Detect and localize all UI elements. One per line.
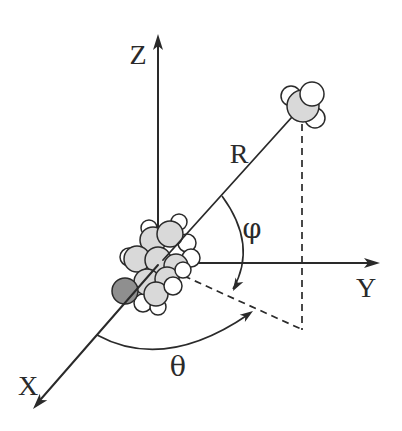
phi-angle-arc bbox=[222, 196, 243, 291]
r-distance-label: R bbox=[230, 138, 249, 169]
theta-arc-line bbox=[97, 314, 249, 349]
z-axis-label: Z bbox=[129, 39, 146, 70]
r-distance-line bbox=[163, 117, 292, 260]
diagram-svg: Z Y X R φ θ bbox=[0, 0, 402, 431]
theta-angle-arc bbox=[97, 311, 253, 349]
molecule-atom bbox=[300, 82, 324, 106]
y-axis-label: Y bbox=[356, 272, 376, 303]
origin-molecular-cluster bbox=[112, 214, 200, 315]
coordinate-diagram: Z Y X R φ θ bbox=[0, 0, 402, 431]
r-line bbox=[163, 117, 292, 260]
x-axis-line bbox=[41, 265, 158, 399]
cluster-atom bbox=[164, 277, 182, 295]
phi-angle-label: φ bbox=[243, 213, 262, 244]
x-axis bbox=[33, 265, 158, 409]
phi-arc-line bbox=[222, 196, 243, 289]
theta-arc-arrowhead-icon bbox=[240, 311, 253, 322]
x-axis-label: X bbox=[18, 370, 38, 401]
theta-angle-label: θ bbox=[170, 351, 186, 382]
cluster-atom bbox=[175, 262, 191, 278]
